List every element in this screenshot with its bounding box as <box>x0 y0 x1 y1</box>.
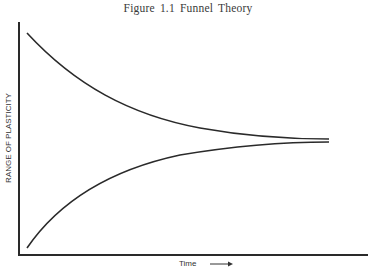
funnel-plot <box>0 0 376 271</box>
arrow-right-icon <box>228 262 233 267</box>
y-axis-label: RANGE OF PLASTICITY <box>4 93 13 183</box>
lower-curve <box>27 142 329 248</box>
upper-curve <box>27 33 329 139</box>
x-axis-label: Time <box>179 259 196 268</box>
